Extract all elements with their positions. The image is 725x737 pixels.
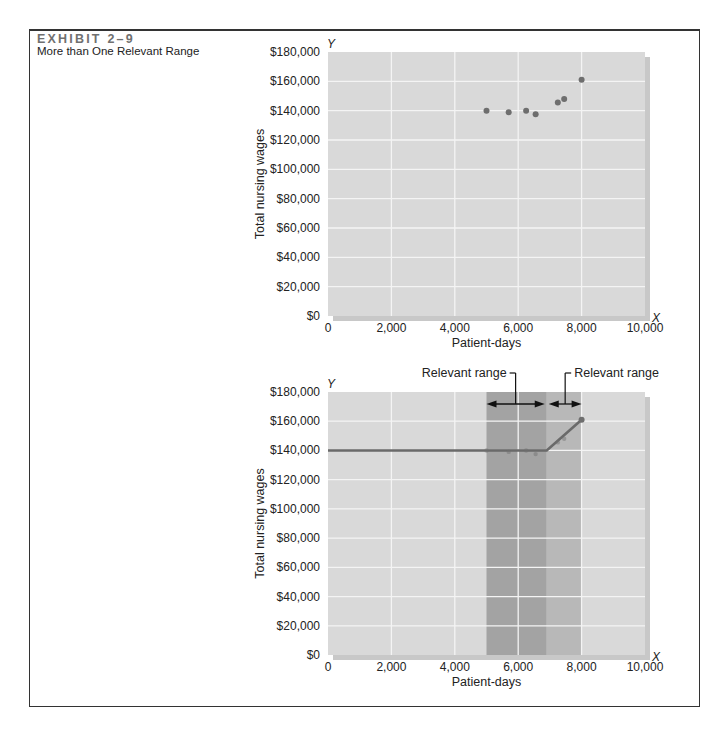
data-point bbox=[556, 440, 560, 444]
y-axis-letter: Y bbox=[327, 377, 336, 391]
data-point bbox=[555, 100, 561, 106]
data-point bbox=[533, 452, 537, 456]
y-tick-label: $20,000 bbox=[277, 619, 321, 633]
data-point bbox=[484, 108, 490, 114]
x-tick-label: 4,000 bbox=[440, 660, 470, 674]
x-tick-label: 2,000 bbox=[376, 321, 406, 335]
x-tick-label: 0 bbox=[325, 321, 332, 335]
chart-2: 02,0004,0006,0008,00010,000$0$20,000$40,… bbox=[253, 366, 664, 689]
x-axis-title: Patient-days bbox=[452, 336, 521, 350]
y-tick-label: $100,000 bbox=[270, 502, 320, 516]
x-tick-label: 0 bbox=[325, 660, 332, 674]
data-point bbox=[484, 448, 488, 452]
y-tick-label: $60,000 bbox=[277, 221, 321, 235]
y-tick-label: $120,000 bbox=[270, 473, 320, 487]
data-point bbox=[506, 450, 510, 454]
data-point bbox=[533, 111, 539, 117]
x-axis-letter: X bbox=[651, 650, 661, 664]
y-tick-label: $80,000 bbox=[277, 192, 321, 206]
y-axis-title: Total nursing wages bbox=[253, 468, 267, 578]
y-axis-letter: Y bbox=[327, 37, 336, 51]
y-tick-label: $160,000 bbox=[270, 74, 320, 88]
data-point bbox=[579, 417, 585, 423]
y-tick-label: $180,000 bbox=[270, 45, 320, 59]
y-tick-label: $180,000 bbox=[270, 385, 320, 399]
y-tick-label: $60,000 bbox=[277, 560, 321, 574]
x-axis-title: Patient-days bbox=[452, 675, 521, 689]
plot-area bbox=[328, 52, 645, 316]
x-tick-label: 6,000 bbox=[503, 321, 533, 335]
relevant-range-label-2: Relevant range bbox=[574, 366, 659, 380]
data-point bbox=[579, 77, 585, 83]
y-tick-label: $160,000 bbox=[270, 414, 320, 428]
data-point bbox=[524, 448, 528, 452]
x-axis-letter: X bbox=[651, 311, 661, 325]
relevant-range-label-1: Relevant range bbox=[422, 366, 507, 380]
y-tick-label: $140,000 bbox=[270, 443, 320, 457]
y-axis-title: Total nursing wages bbox=[253, 129, 267, 239]
charts-canvas: 02,0004,0006,0008,00010,000$0$20,000$40,… bbox=[0, 0, 725, 737]
x-tick-label: 8,000 bbox=[567, 321, 597, 335]
relevant-range-band bbox=[487, 392, 547, 655]
x-tick-label: 4,000 bbox=[440, 321, 470, 335]
x-tick-label: 2,000 bbox=[376, 660, 406, 674]
data-point bbox=[523, 108, 529, 114]
y-tick-label: $40,000 bbox=[277, 250, 321, 264]
data-point bbox=[506, 109, 512, 115]
y-tick-label: $40,000 bbox=[277, 590, 321, 604]
y-tick-label: $0 bbox=[307, 648, 321, 662]
y-tick-label: $120,000 bbox=[270, 133, 320, 147]
y-tick-label: $20,000 bbox=[277, 280, 321, 294]
x-tick-label: 6,000 bbox=[503, 660, 533, 674]
chart-1: 02,0004,0006,0008,00010,000$0$20,000$40,… bbox=[253, 37, 664, 350]
data-point bbox=[562, 437, 566, 441]
x-tick-label: 8,000 bbox=[567, 660, 597, 674]
y-tick-label: $100,000 bbox=[270, 162, 320, 176]
y-tick-label: $80,000 bbox=[277, 531, 321, 545]
y-tick-label: $0 bbox=[307, 309, 321, 323]
data-point bbox=[561, 96, 567, 102]
y-tick-label: $140,000 bbox=[270, 104, 320, 118]
relevant-range-band bbox=[547, 392, 582, 655]
